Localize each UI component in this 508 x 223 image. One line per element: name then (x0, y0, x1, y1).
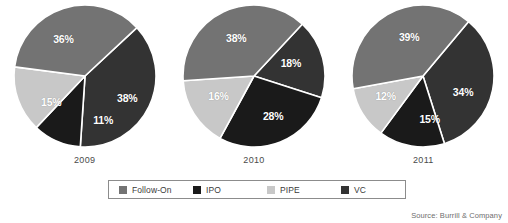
pie-graphic: 34%15%12%39% (349, 2, 497, 150)
legend-label: VC (354, 185, 366, 195)
legend-item-ipo[interactable]: IPO (183, 185, 257, 195)
pie-chart-2010: 18%28%16%38%2010 (174, 2, 334, 165)
chart-year-label: 2010 (243, 155, 264, 165)
legend-swatch-icon (119, 186, 127, 194)
pie-graphic: 38%11%15%36% (11, 2, 159, 150)
legend-label: PIPE (280, 185, 300, 195)
legend-label: IPO (206, 185, 221, 195)
pie-chart-2011: 34%15%12%39%2011 (343, 2, 503, 165)
slice-value-label: 36% (53, 33, 73, 45)
slice-value-label: 28% (263, 110, 283, 122)
pie-graphic: 18%28%16%38% (180, 2, 328, 150)
slice-value-label: 39% (399, 31, 419, 43)
slice-value-label: 34% (453, 86, 473, 98)
slice-value-label: 38% (117, 92, 137, 104)
chart-legend: Follow-OnIPOPIPEVC (108, 180, 406, 199)
chart-year-label: 2011 (413, 155, 434, 165)
slice-value-label: 38% (226, 32, 246, 44)
pie-chart-2009: 38%11%15%36%2009 (5, 2, 165, 165)
legend-swatch-icon (267, 186, 275, 194)
slice-value-label: 15% (41, 96, 61, 108)
legend-item-pipe[interactable]: PIPE (257, 185, 331, 195)
slice-value-label: 12% (375, 90, 395, 102)
chart-year-label: 2009 (74, 155, 95, 165)
source-attribution: Source: Burrill & Company (411, 211, 502, 220)
slice-value-label: 18% (281, 57, 301, 69)
legend-item-follow-on[interactable]: Follow-On (109, 185, 183, 195)
slice-value-label: 16% (208, 90, 228, 102)
legend-swatch-icon (193, 186, 201, 194)
legend-label: Follow-On (132, 185, 172, 195)
pie-charts-row: 38%11%15%36%200918%28%16%38%201034%15%12… (0, 2, 508, 154)
slice-value-label: 15% (419, 113, 439, 125)
legend-item-vc[interactable]: VC (331, 185, 405, 195)
slice-value-label: 11% (93, 114, 113, 126)
pie-chart-figure: 38%11%15%36%200918%28%16%38%201034%15%12… (0, 0, 508, 223)
legend-swatch-icon (341, 186, 349, 194)
